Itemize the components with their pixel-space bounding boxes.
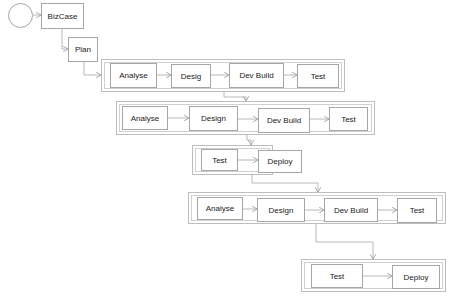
iteration-2-test[interactable]: Test: [329, 107, 368, 131]
step-label: Test: [330, 272, 345, 281]
release-1-deploy[interactable]: Deploy: [258, 150, 302, 173]
process-diagram: BizCase Plan Analyse Desig Dev Build Tes…: [0, 0, 453, 299]
connector-plan-iteration-1: [84, 62, 101, 75]
bizcase-label: BizCase: [48, 12, 78, 21]
connector-iteration-1-iteration-2: [224, 92, 246, 101]
release-2-deploy[interactable]: Deploy: [392, 265, 440, 289]
step-label: Design: [201, 114, 226, 123]
iteration-1-test[interactable]: Test: [297, 64, 339, 88]
step-label: Test: [341, 115, 356, 124]
iteration-1-analyse[interactable]: Analyse: [110, 63, 157, 88]
iteration-2-dev-build[interactable]: Dev Build: [258, 108, 310, 133]
start-node[interactable]: [8, 3, 33, 28]
plan-node[interactable]: Plan: [68, 37, 98, 62]
step-label: Test: [311, 72, 326, 81]
step-label: Analyse: [206, 204, 234, 213]
iteration-3-dev-build[interactable]: Dev Build: [324, 198, 378, 222]
iteration-2-analyse[interactable]: Analyse: [122, 106, 168, 130]
release-1-test[interactable]: Test: [201, 149, 238, 171]
iteration-2-design[interactable]: Design: [189, 106, 238, 131]
iteration-1-dev-build[interactable]: Dev Build: [229, 63, 284, 88]
step-label: Test: [212, 156, 227, 165]
step-label: Test: [410, 206, 425, 215]
step-label: Deploy: [268, 157, 293, 166]
plan-label: Plan: [75, 45, 91, 54]
step-label: Dev Build: [239, 71, 273, 80]
step-label: Dev Build: [334, 206, 368, 215]
iteration-3-design[interactable]: Design: [257, 198, 305, 222]
iteration-3-analyse[interactable]: Analyse: [197, 197, 243, 220]
step-label: Analyse: [131, 114, 159, 123]
bizcase-node[interactable]: BizCase: [41, 3, 84, 29]
step-label: Dev Build: [267, 116, 301, 125]
step-label: Desig: [181, 72, 201, 81]
release-2-test[interactable]: Test: [311, 264, 363, 288]
iteration-3-test[interactable]: Test: [397, 198, 437, 223]
step-label: Analyse: [119, 71, 147, 80]
step-label: Design: [269, 206, 294, 215]
iteration-1-design[interactable]: Desig: [171, 64, 211, 88]
step-label: Deploy: [404, 273, 429, 282]
connector-iteration-3-release-2: [316, 224, 373, 259]
connector-iteration-2-release-1: [247, 135, 251, 145]
connector-release-1-iteration-3: [252, 175, 318, 192]
